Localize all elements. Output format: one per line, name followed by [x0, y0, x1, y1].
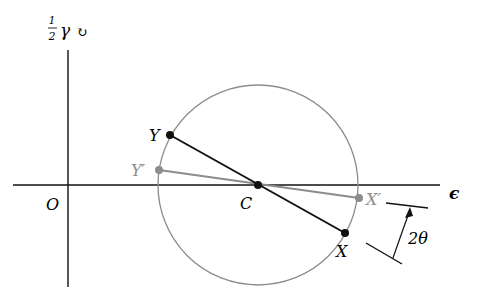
- point-y: [166, 131, 174, 139]
- point-y-prime: [155, 166, 163, 174]
- angle-tick-upper: [386, 203, 428, 208]
- point-x: [341, 229, 349, 237]
- origin-label: O: [46, 195, 59, 214]
- vertical-axis-label-numerator: 1: [49, 14, 56, 27]
- vertical-axis-label-denominator: 2: [48, 30, 56, 43]
- angle-arrowhead-icon: [405, 207, 413, 218]
- vertical-axis-label-symbol: γ: [60, 20, 71, 40]
- mohr-circle-diagram: 1 2 γ ↻ ϵ O C Y X Y′ X′ 2θ: [0, 0, 483, 299]
- y-label: Y: [149, 126, 161, 145]
- x-prime-label: X′: [364, 190, 381, 209]
- clockwise-arrow-icon: ↻: [76, 24, 88, 40]
- center-label: C: [240, 194, 252, 213]
- point-center: [254, 181, 262, 189]
- angle-label: 2θ: [407, 229, 428, 248]
- point-x-prime: [355, 194, 363, 202]
- y-prime-label: Y′: [131, 161, 146, 180]
- x-label: X: [334, 242, 348, 261]
- horizontal-axis-label: ϵ: [449, 183, 460, 203]
